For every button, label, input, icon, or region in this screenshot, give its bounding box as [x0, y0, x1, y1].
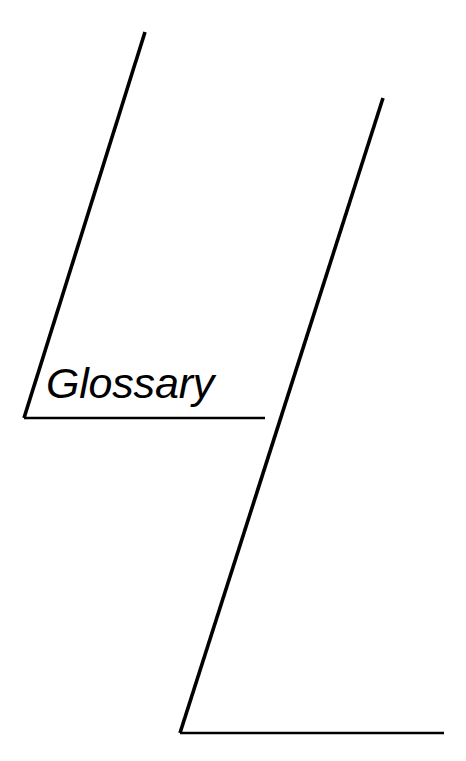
page-canvas: Glossary	[0, 0, 466, 761]
page-title: Glossary	[46, 362, 214, 405]
lower-diagonal-rule	[180, 98, 383, 733]
